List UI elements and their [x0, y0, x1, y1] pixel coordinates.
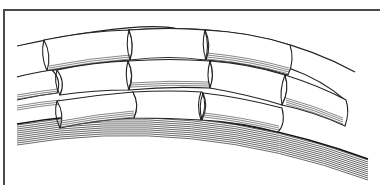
segmented-arch-illustration	[0, 0, 380, 185]
